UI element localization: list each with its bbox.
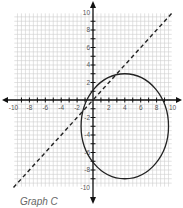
arrow-up-icon [90,1,96,8]
x-tick-label: -8 [27,104,33,111]
y-tick-label: -10 [81,184,91,191]
x-tick-label: 2 [107,104,111,111]
y-tick-label: 10 [83,9,91,16]
y-tick-label: 4 [86,61,90,68]
x-tick-label: 10 [169,104,177,111]
x-tick-label: 8 [155,104,159,111]
y-tick-label: 8 [86,26,90,33]
x-tick-label: -10 [9,104,19,111]
x-tick-label: -6 [42,104,48,111]
graph-caption: Graph C [20,196,58,207]
coordinate-graph: -10-8-6-4-2246810108642-2-4-6-8-10 [0,0,183,208]
y-tick-label: 2 [86,79,90,86]
x-tick-label: -4 [58,104,64,111]
y-tick-label: 6 [86,44,90,51]
arrow-right-icon [176,97,182,103]
x-tick-label: 6 [139,104,143,111]
x-tick-label: 4 [123,104,127,111]
arrow-left-icon [2,97,8,103]
arrow-down-icon [90,197,96,204]
y-tick-label: -2 [84,114,90,121]
y-tick-label: -4 [84,131,90,138]
y-tick-label: -8 [84,166,90,173]
x-tick-label: -2 [74,104,80,111]
